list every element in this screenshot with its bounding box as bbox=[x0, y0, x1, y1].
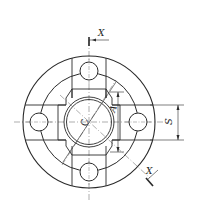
flange-drawing: X X C A S bbox=[0, 0, 198, 208]
section-label-bottom: X bbox=[145, 166, 153, 176]
section-label-top: X bbox=[97, 28, 105, 38]
section-marker-top bbox=[89, 37, 109, 46]
dimension-s-label: S bbox=[163, 118, 174, 125]
center-label: C bbox=[80, 119, 90, 126]
